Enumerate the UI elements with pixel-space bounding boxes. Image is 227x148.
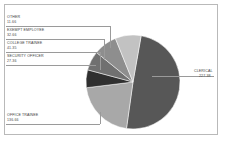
callout-label-security-officer: SECURITY OFFICER: [7, 54, 44, 58]
leader-line-college-trainee-stem: [104, 39, 105, 59]
callout-label-exempt-employee: EXEMPT EMPLOYEE: [7, 28, 44, 32]
leader-line-security-officer: [6, 52, 100, 53]
leader-line-exempt-employee: [6, 26, 110, 27]
leader-line-office-trainee-stem: [100, 112, 101, 124]
pie-svg: [0, 0, 227, 148]
callout-label-college-trainee: COLLEGE TRAINEE: [7, 41, 42, 45]
callout-value-college-trainee: 41.35: [7, 46, 17, 50]
callout-label-office-trainee: OFFICE TRAINEE: [7, 113, 38, 117]
callout-label-clerical: CLERICAL: [194, 69, 213, 73]
pie-chart: OTHER 11.66 EXEMPT EMPLOYEE 32.66 COLLEG…: [0, 0, 227, 148]
leader-line-other: [6, 65, 96, 66]
callout-value-exempt-employee: 32.66: [7, 33, 17, 37]
callout-value-other: 11.66: [7, 20, 16, 24]
callout-value-clerical: 227.38: [199, 74, 211, 78]
leader-line-college-trainee: [6, 39, 104, 40]
callout-value-security-officer: 27.36: [7, 59, 17, 63]
leader-line-security-officer-stem: [100, 52, 101, 70]
leader-line-exempt-employee-stem: [110, 26, 111, 48]
callout-value-office-trainee: 136.66: [7, 118, 19, 122]
callout-label-other: OTHER: [7, 15, 20, 19]
leader-line-office-trainee: [6, 124, 100, 125]
pie-slice-office-trainee: [86, 82, 133, 129]
